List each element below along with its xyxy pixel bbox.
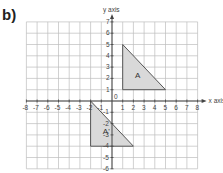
y-tick-label: 5 <box>106 41 110 48</box>
x-tick-label: 1 <box>121 104 125 111</box>
x-axis-arrow-icon <box>202 99 207 103</box>
y-tick-label: -6 <box>103 165 109 172</box>
x-tick-label: 6 <box>174 104 178 111</box>
x-tick-label: 8 <box>196 104 200 111</box>
x-tick-label: 3 <box>142 104 146 111</box>
x-tick-label: -3 <box>76 104 82 111</box>
x-tick-label: 4 <box>153 104 157 111</box>
x-axis-label: x axis <box>209 97 223 104</box>
x-tick-label: -8 <box>22 104 28 111</box>
origin-label: 0 <box>114 93 118 100</box>
y-tick-label: 2 <box>106 74 110 81</box>
y-tick-label: 3 <box>106 63 110 70</box>
y-axis-label: y axis <box>103 6 120 14</box>
y-tick-label: -4 <box>103 142 109 149</box>
y-tick-label: 6 <box>106 29 110 36</box>
shape-label: A <box>135 71 141 80</box>
y-tick-label: -2 <box>103 120 109 127</box>
x-tick-label: -6 <box>44 104 50 111</box>
x-tick-label: -5 <box>55 104 61 111</box>
y-tick-label: 7 <box>106 18 110 25</box>
y-tick-label: -3 <box>103 131 109 138</box>
x-tick-label: 7 <box>185 104 189 111</box>
y-tick-label: -1 <box>103 108 109 115</box>
x-tick-label: -7 <box>33 104 39 111</box>
y-tick-label: 1 <box>106 86 110 93</box>
x-tick-label: -2 <box>87 104 93 111</box>
x-tick-label: 2 <box>131 104 135 111</box>
coordinate-grid: AA'x axisy axis0-8-7-6-5-4-3-2-112345678… <box>0 0 223 173</box>
x-tick-label: -4 <box>65 104 71 111</box>
x-tick-label: 5 <box>164 104 168 111</box>
y-axis-arrow-icon <box>110 14 114 19</box>
y-tick-label: 4 <box>106 52 110 59</box>
y-tick-label: -5 <box>103 154 109 161</box>
